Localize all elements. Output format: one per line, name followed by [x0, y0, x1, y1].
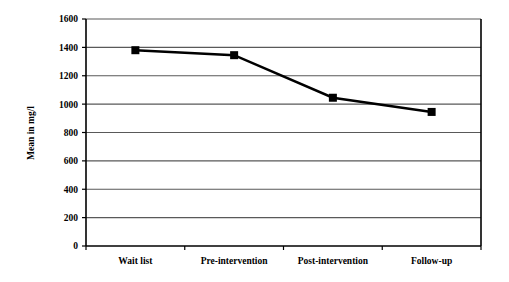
- chart-canvas: 02004006008001000120014001600 Wait listP…: [0, 0, 509, 282]
- y-axis-tick-label: 600: [64, 156, 79, 166]
- data-point-marker: [428, 108, 436, 116]
- data-point-marker: [131, 46, 139, 54]
- y-axis-tick-label: 200: [64, 213, 79, 223]
- x-axis-category-label: Follow-up: [411, 256, 452, 266]
- y-axis-tick-label: 1200: [59, 71, 78, 81]
- data-point-marker: [230, 51, 238, 59]
- y-axis-tick-label: 1000: [59, 100, 78, 110]
- data-point-marker: [329, 94, 337, 102]
- x-axis-category-label: Wait list: [118, 256, 153, 266]
- y-axis-tick-label: 400: [64, 185, 79, 195]
- line-chart: 02004006008001000120014001600 Wait listP…: [0, 0, 509, 282]
- y-axis-tick-label: 1400: [59, 43, 78, 53]
- y-axis-tick-label: 1600: [59, 14, 78, 24]
- y-axis-title: Mean in mg/l: [26, 106, 36, 160]
- y-axis-tick-label: 0: [73, 241, 78, 251]
- x-axis-category-label: Post-intervention: [298, 256, 369, 266]
- y-axis-tick-label: 800: [64, 128, 79, 138]
- x-axis-category-label: Pre-intervention: [201, 256, 269, 266]
